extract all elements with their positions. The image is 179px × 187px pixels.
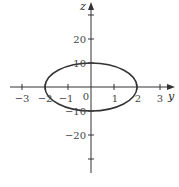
tick-label-z-20: 20: [73, 34, 86, 45]
tick-label-origin: 0: [83, 91, 89, 102]
tick-label-y-2: 2: [135, 93, 141, 104]
tick-label-y-m3: −3: [15, 93, 30, 104]
axis-label-y: y: [167, 90, 175, 103]
tick-label-z-m20: −20: [65, 130, 86, 141]
tick-label-z-m10: −10: [65, 106, 86, 117]
tick-label-y-1: 1: [112, 93, 118, 104]
chart: −3 −2 −1 0 1 2 3 20 10 −10 −20 z y: [0, 0, 179, 187]
axis-label-z: z: [79, 0, 86, 13]
tick-label-z-10: 10: [73, 58, 86, 69]
z-axis-arrow-icon: [88, 2, 94, 10]
tick-label-y-3: 3: [157, 93, 163, 104]
tick-label-y-m2: −2: [38, 93, 53, 104]
tick-label-y-m1: −1: [59, 93, 74, 104]
